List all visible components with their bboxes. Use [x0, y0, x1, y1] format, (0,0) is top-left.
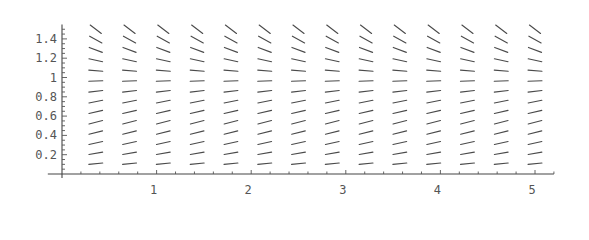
slope-segment	[123, 47, 136, 52]
slope-segment	[529, 36, 541, 43]
slope-segment	[89, 131, 103, 134]
slope-segment	[461, 47, 474, 52]
slope-segment	[156, 90, 170, 92]
slope-segment	[528, 100, 542, 103]
slope-segment	[123, 131, 137, 134]
slope-segment	[191, 47, 204, 52]
slope-segment	[496, 25, 507, 34]
slope-segment	[428, 36, 440, 43]
slope-segment	[393, 152, 407, 154]
slope-segment	[359, 163, 373, 164]
slope-segment	[326, 36, 338, 43]
slope-segment	[461, 121, 475, 124]
slope-segment	[427, 70, 441, 71]
slope-segment	[292, 59, 306, 62]
slope-segment	[90, 25, 101, 34]
slope-segment	[494, 152, 508, 154]
slope-segment	[292, 121, 306, 124]
slope-segment	[427, 47, 440, 52]
slope-segment	[124, 25, 135, 34]
y-tick-label: 1	[50, 71, 57, 85]
slope-segment	[123, 70, 137, 71]
slope-segment	[360, 36, 372, 43]
slope-segment	[190, 100, 204, 103]
slope-segment	[462, 25, 473, 34]
slope-segment	[394, 25, 405, 34]
slope-segment	[293, 25, 304, 34]
slope-segment	[123, 90, 137, 92]
slope-segment	[359, 47, 372, 52]
slope-segment	[224, 100, 238, 103]
slope-segment	[89, 59, 103, 62]
slope-segment	[460, 163, 474, 164]
slope-segment	[325, 152, 339, 154]
slope-segment	[123, 36, 135, 43]
slope-segment	[292, 131, 306, 134]
slope-segment	[326, 47, 339, 52]
slope-segment	[427, 100, 441, 103]
slope-segment	[393, 110, 407, 113]
slope-segment	[528, 163, 542, 164]
slope-segment	[190, 142, 204, 145]
slope-segment	[89, 142, 103, 145]
slope-segment	[191, 36, 203, 43]
slope-segment	[360, 25, 371, 34]
slope-segment	[190, 59, 204, 62]
slope-segment	[427, 163, 441, 164]
slope-segment	[292, 36, 304, 43]
slope-segment	[325, 59, 339, 62]
slope-segment	[123, 163, 137, 164]
slope-segment	[225, 25, 236, 34]
slope-segment	[192, 25, 203, 34]
slope-segment	[428, 25, 439, 34]
slope-segment	[494, 121, 508, 124]
x-tick-label: 5	[528, 183, 535, 197]
slope-segment	[325, 70, 339, 71]
slope-segment	[224, 152, 238, 154]
slope-segment	[325, 163, 339, 164]
slope-segment	[157, 47, 170, 52]
slope-segment	[359, 70, 373, 71]
slope-segment	[528, 90, 542, 92]
slope-segment	[156, 59, 170, 62]
slope-segment	[90, 36, 102, 43]
slope-segment	[494, 163, 508, 164]
slope-segment	[258, 47, 271, 52]
slope-segment	[258, 70, 272, 71]
slope-segment	[461, 152, 475, 154]
slope-segment	[190, 121, 204, 124]
slope-segment	[427, 59, 441, 62]
slope-segment	[89, 110, 103, 113]
slope-segment	[427, 142, 441, 145]
slope-segment	[224, 131, 238, 134]
slope-segment	[393, 47, 406, 52]
slope-segment	[158, 25, 169, 34]
y-tick-label: 0.2	[35, 148, 57, 162]
slope-segment	[259, 36, 271, 43]
slope-segment	[528, 121, 542, 124]
slope-segment	[528, 110, 542, 113]
slope-segment	[528, 47, 541, 52]
slope-segment	[89, 100, 103, 103]
x-tick-label: 1	[150, 183, 157, 197]
slope-segment	[427, 152, 441, 154]
slope-segment	[89, 163, 103, 164]
slope-segment	[359, 110, 373, 113]
slope-segment	[258, 121, 272, 124]
slope-segment	[123, 59, 137, 62]
slope-segment	[325, 110, 339, 113]
slope-segment	[393, 121, 407, 124]
slope-segment	[359, 152, 373, 154]
slope-segment	[292, 90, 306, 92]
slope-segment	[156, 163, 170, 164]
slope-segment	[528, 131, 542, 134]
slope-segment	[292, 152, 306, 154]
slope-segment	[325, 131, 339, 134]
slope-segment	[529, 25, 540, 34]
slope-segment	[224, 163, 238, 164]
slope-segment	[156, 152, 170, 154]
slope-segment	[292, 163, 306, 164]
slope-segment	[325, 142, 339, 145]
slope-segment	[258, 110, 272, 113]
slope-segment	[494, 131, 508, 134]
